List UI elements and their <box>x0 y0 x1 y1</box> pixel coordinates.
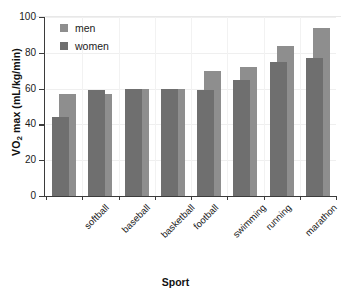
y-tick <box>39 17 45 18</box>
bar-women-swimming <box>197 90 214 196</box>
x-category-label: marathon <box>302 202 338 238</box>
y-axis-title-subscript: 2 <box>15 136 24 141</box>
bar-women-running <box>233 80 250 196</box>
y-tick <box>39 124 45 125</box>
y-tick-label: 80 <box>25 48 36 58</box>
x-axis-title: Sport <box>0 276 351 288</box>
y-axis-title: VO2 max (mL/kg/min) <box>10 15 22 190</box>
x-tick <box>46 196 47 200</box>
x-gridline <box>300 17 301 196</box>
x-category-label: running <box>264 202 294 232</box>
bar-women-marathon <box>270 62 287 196</box>
x-gridline <box>227 17 228 196</box>
x-category-label: softball <box>82 202 111 231</box>
bar-women-cross-country-skiing <box>306 58 323 196</box>
y-tick-label: 100 <box>19 12 36 22</box>
x-tick <box>264 196 265 200</box>
x-axis-line <box>44 196 336 197</box>
y-tick <box>39 53 45 54</box>
y-tick-label: 40 <box>25 119 36 129</box>
x-tick <box>191 196 192 200</box>
x-category-label: basketball <box>158 202 196 240</box>
vo2max-bar-chart: VO2 max (mL/kg/min) 020406080100 softbal… <box>0 0 351 292</box>
x-tick <box>227 196 228 200</box>
bar-women-baseball <box>88 90 105 196</box>
y-axis-title-main: VO <box>10 141 22 156</box>
bar-women-softball <box>52 117 69 196</box>
legend-swatch-men-icon <box>60 24 68 32</box>
bar-women-basketball <box>125 89 142 196</box>
legend-swatch-women-icon <box>60 42 68 50</box>
chart-legend: men women <box>60 20 109 56</box>
x-gridline <box>264 17 265 196</box>
y-tick <box>39 196 45 197</box>
legend-item-women: women <box>60 38 109 54</box>
y-axis-title-rest: max (mL/kg/min) <box>10 48 22 136</box>
y-tick <box>39 89 45 90</box>
x-category-label: swimming <box>230 202 268 240</box>
x-tick <box>300 196 301 200</box>
y-tick-label: 60 <box>25 84 36 94</box>
y-axis-line <box>44 17 45 197</box>
x-gridline <box>119 17 120 196</box>
legend-item-men: men <box>60 20 109 36</box>
x-gridline <box>155 17 156 196</box>
legend-label-men: men <box>75 22 95 34</box>
x-tick <box>82 196 83 200</box>
legend-label-women: women <box>75 40 109 52</box>
bar-women-football <box>161 89 178 196</box>
x-tick <box>336 196 337 200</box>
x-tick <box>155 196 156 200</box>
y-tick-label: 0 <box>30 191 36 201</box>
y-tick-label: 20 <box>25 155 36 165</box>
x-category-label: baseball <box>120 202 153 235</box>
x-gridline <box>191 17 192 196</box>
y-tick <box>39 160 45 161</box>
x-tick <box>119 196 120 200</box>
x-category-label: football <box>191 202 220 231</box>
